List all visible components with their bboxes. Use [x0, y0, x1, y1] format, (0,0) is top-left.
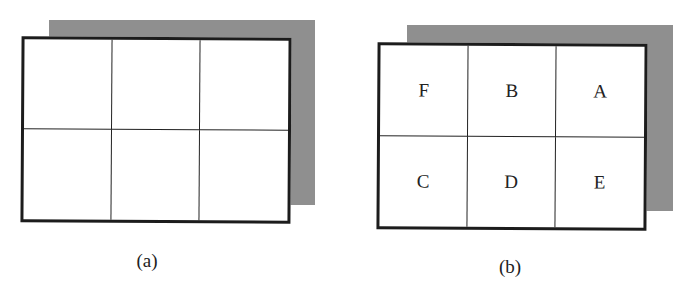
grid-cell [112, 40, 201, 131]
grid-cell [24, 39, 113, 130]
grid-cell-f: F [380, 45, 469, 136]
grid-cell-c: C [379, 136, 468, 227]
panel-b-caption: (b) [480, 256, 540, 278]
grid-cell-d: D [467, 136, 556, 227]
grid-cell [23, 129, 112, 220]
panel-a-caption: (a) [117, 250, 177, 272]
grid-cell-a: A [556, 46, 645, 137]
panel-b-frame: F B A C D E [376, 42, 647, 231]
grid-cell-e: E [555, 137, 644, 228]
panel-a-frame [20, 36, 291, 224]
grid-cell [200, 40, 289, 131]
grid-cell [199, 130, 288, 221]
grid-cell-b: B [468, 46, 557, 137]
grid-cell [111, 130, 200, 221]
